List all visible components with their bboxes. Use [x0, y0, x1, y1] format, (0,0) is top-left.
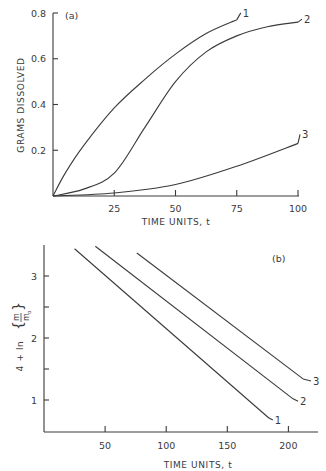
- panel-a-curves: 123: [53, 8, 310, 196]
- x-tick-label: 150: [218, 440, 236, 451]
- series-2-line: [53, 22, 298, 196]
- right-brace: }: [10, 301, 26, 311]
- series-1-label: 1: [243, 8, 249, 19]
- y-tick-label: 0.8: [31, 8, 46, 19]
- series-2-label: 2: [304, 14, 310, 25]
- y-tick-label: 1: [31, 395, 37, 406]
- panel-b-x-axis-title: TIME UNITS, t: [163, 460, 233, 470]
- series-3-line: [137, 253, 303, 379]
- series-3-label: 3: [313, 376, 319, 387]
- fraction-numerator: m: [12, 313, 21, 321]
- x-tick-label: 50: [99, 440, 111, 451]
- series-1-line: [53, 20, 237, 196]
- y-tick-label: 0.4: [31, 99, 46, 110]
- x-tick-label: 25: [108, 203, 120, 214]
- panel-b-lines: 123: [75, 246, 320, 426]
- panel-b-y-ticks: 123: [31, 271, 49, 406]
- series-label-leader: [269, 418, 273, 420]
- x-tick-label: 100: [157, 440, 175, 451]
- panel-a-y-ticks: 0.20.40.60.8: [31, 8, 58, 156]
- series-label-leader: [298, 134, 300, 143]
- series-label-leader: [237, 13, 241, 20]
- series-label-leader: [303, 379, 311, 381]
- series-1-line: [75, 249, 269, 418]
- x-tick-label: 50: [169, 203, 181, 214]
- series-2-label: 2: [300, 396, 306, 407]
- series-1-label: 1: [275, 415, 281, 426]
- series-3-line: [53, 143, 298, 196]
- panel-b-y-axis-prefix: 4 + ln: [15, 341, 25, 372]
- y-tick-label: 3: [31, 271, 37, 282]
- figure: 0.20.40.60.8 255075100 123 (a) TIME UNIT…: [0, 0, 326, 471]
- series-3-label: 3: [302, 129, 308, 140]
- panel-b-y-axis-title: 4 + ln { m m o }: [10, 301, 32, 371]
- panel-a-chart: 0.20.40.60.8 255075100 123 (a) TIME UNIT…: [16, 8, 310, 228]
- y-tick-label: 0.6: [31, 53, 46, 64]
- panel-a-label: (a): [65, 10, 78, 21]
- series-label-leader: [298, 19, 302, 22]
- y-tick-label: 2: [31, 333, 37, 344]
- x-tick-label: 100: [289, 203, 307, 214]
- panel-b-label: (b): [272, 253, 285, 264]
- y-tick-label: 0.2: [31, 145, 46, 156]
- x-tick-label: 200: [279, 440, 297, 451]
- panel-a-x-axis-title: TIME UNITS, t: [141, 217, 211, 227]
- x-tick-label: 75: [231, 203, 243, 214]
- panel-a-x-ticks: 255075100: [108, 190, 307, 214]
- series-2-line: [95, 246, 292, 398]
- panel-a-y-axis-title: GRAMS DISSOLVED: [16, 57, 26, 152]
- panel-b-chart: 123 50100150200 123 (b) TIME UNITS, t 4 …: [10, 245, 319, 470]
- fraction-subscript: o: [26, 310, 32, 314]
- panel-b-x-ticks: 50100150200: [99, 426, 297, 451]
- series-label-leader: [292, 398, 298, 401]
